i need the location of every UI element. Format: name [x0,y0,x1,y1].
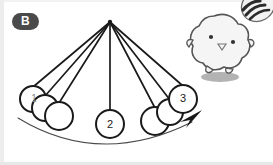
panel-label-badge: B [12,13,39,30]
string-6 [110,22,170,100]
figure-panel: 1 2 3 B [0,0,273,165]
pendulum-illustration [0,0,273,165]
bob-label-1: 1 [27,93,41,104]
creature-eye-right [231,40,235,44]
pendulum-pivot [108,20,112,24]
string-3 [59,22,110,103]
bob-label-3: 3 [176,92,190,104]
pendulum-bob-left-near [45,102,73,130]
string-7 [110,22,183,86]
string-5 [110,22,155,108]
creature-body [191,14,250,69]
striped-bee-object [236,0,273,27]
string-2 [45,22,110,96]
creature-shadow [201,72,239,82]
bob-label-2: 2 [103,118,117,130]
creature-foot-right [226,68,233,73]
creature-eye-left [209,35,213,39]
pendulum-strings [33,22,183,111]
fluffy-creature [187,14,254,73]
string-1 [33,22,110,87]
